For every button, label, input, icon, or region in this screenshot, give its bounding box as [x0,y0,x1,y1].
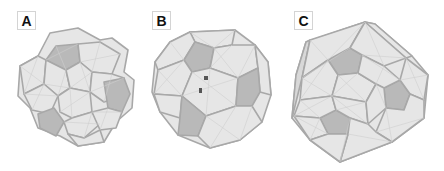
panel-b: B [140,0,290,171]
marker-dot-upper [204,76,208,80]
polyhedron-b-image [140,0,290,171]
polyhedron-c-image [280,0,444,171]
marker-dot-lower [199,88,202,93]
panel-c: C [280,0,444,171]
panel-a: A [0,0,148,171]
polyhedron-a-image [0,0,148,171]
